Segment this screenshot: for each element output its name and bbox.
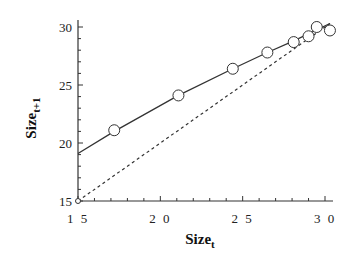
data-point: [262, 47, 273, 58]
chart: 1 52 02 53 015202530SizetSizet+1: [0, 0, 351, 255]
data-point: [303, 31, 314, 42]
x-tick-label: 2 5: [232, 211, 254, 226]
x-tick-label: 1 5: [67, 211, 89, 226]
x-axis-title: Sizet: [185, 231, 215, 250]
labels: 1 52 02 53 015202530SizetSizet+1: [23, 20, 336, 250]
y-tick-label: 15: [59, 194, 72, 209]
y-tick-label: 25: [59, 78, 72, 93]
x-tick-label: 2 0: [149, 211, 171, 226]
data-point: [311, 22, 322, 33]
data-point: [324, 25, 335, 36]
origin-marker: [76, 199, 81, 204]
plot-area: [76, 22, 336, 204]
data-point: [227, 63, 238, 74]
data-point: [109, 125, 120, 136]
data-point: [288, 37, 299, 48]
y-tick-label: 30: [59, 20, 72, 35]
identity-line: [78, 24, 330, 201]
y-tick-label: 20: [59, 136, 72, 151]
x-tick-label: 3 0: [314, 211, 336, 226]
y-axis-title: Sizet+1: [23, 97, 42, 138]
data-point: [173, 90, 184, 101]
